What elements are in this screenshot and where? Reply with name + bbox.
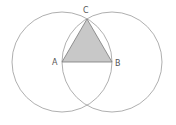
diagram-canvas: A B C [0,0,176,125]
construction-svg: A B C [0,0,176,125]
label-b: B [115,59,121,68]
equilateral-triangle [62,19,112,62]
label-a: A [52,58,58,67]
label-c: C [83,6,89,15]
